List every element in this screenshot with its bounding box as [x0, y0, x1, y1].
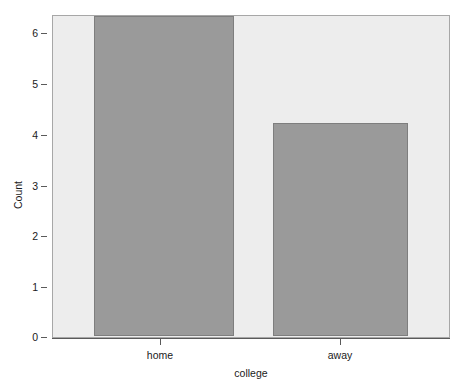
bar-away[interactable] [273, 123, 408, 336]
x-axis-line [52, 338, 450, 339]
y-tick-label-6: 6 [32, 28, 38, 39]
y-axis: Count 6 5 4 3 2 1 0 [0, 0, 52, 390]
y-axis-title: Count [12, 181, 24, 209]
y-tick-mark-2 [41, 236, 47, 237]
y-tick-label-2: 2 [32, 231, 38, 242]
x-axis: home away college [0, 338, 471, 390]
plot-area [53, 16, 449, 337]
x-tick-mark-away [340, 339, 341, 345]
bar-chart-figure: Count 6 5 4 3 2 1 0 home away college [0, 0, 471, 390]
y-tick-label-5: 5 [32, 79, 38, 90]
bar-home[interactable] [94, 16, 234, 336]
x-tick-mark-home [160, 339, 161, 345]
y-tick-mark-1 [41, 287, 47, 288]
x-tick-label-home: home [147, 349, 173, 361]
y-tick-label-3: 3 [32, 181, 38, 192]
y-tick-mark-3 [41, 186, 47, 187]
plot-panel [52, 15, 450, 338]
y-tick-mark-5 [41, 84, 47, 85]
x-axis-title: college [234, 367, 267, 379]
x-tick-label-away: away [328, 349, 353, 361]
y-tick-mark-4 [41, 135, 47, 136]
y-tick-label-1: 1 [32, 282, 38, 293]
y-tick-label-4: 4 [32, 130, 38, 141]
y-tick-mark-6 [41, 33, 47, 34]
